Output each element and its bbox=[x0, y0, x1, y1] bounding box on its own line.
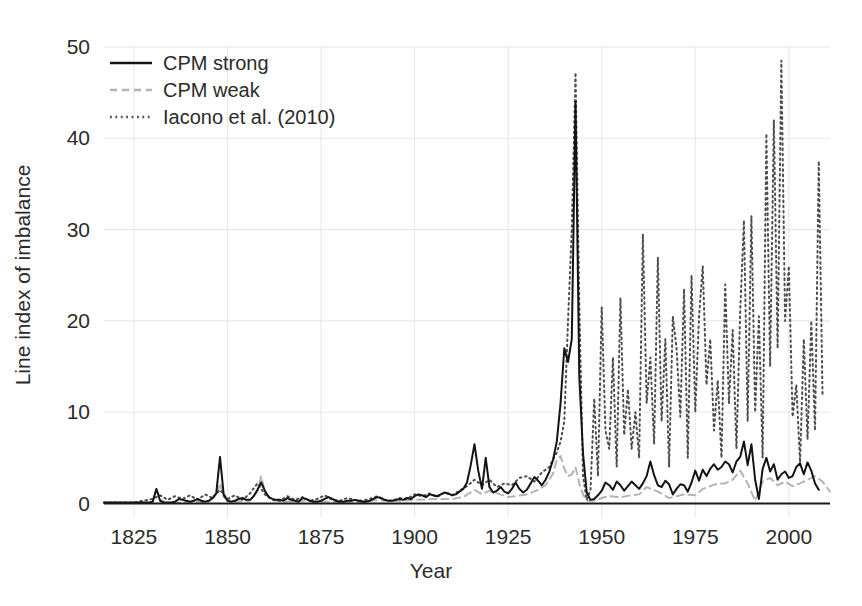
x-tick-label: 1950 bbox=[578, 525, 625, 548]
y-tick-label: 10 bbox=[67, 400, 90, 423]
y-tick-label: 40 bbox=[67, 126, 90, 149]
x-tick-label: 2000 bbox=[765, 525, 812, 548]
y-axis-title: Line index of imbalance bbox=[11, 165, 34, 386]
x-axis-title: Year bbox=[410, 559, 452, 582]
y-tick-label: 50 bbox=[67, 35, 90, 58]
legend-label-cpm-strong: CPM strong bbox=[163, 52, 269, 74]
x-tick-label: 1975 bbox=[672, 525, 719, 548]
legend-label-iacono: Iacono et al. (2010) bbox=[163, 106, 335, 128]
x-tick-label: 1825 bbox=[111, 525, 158, 548]
x-tick-label: 1850 bbox=[204, 525, 251, 548]
line-chart-figure: 01020304050 1825185018751900192519501975… bbox=[0, 0, 862, 606]
x-tick-label: 1925 bbox=[485, 525, 532, 548]
figure-background bbox=[0, 0, 862, 606]
y-tick-label: 0 bbox=[78, 492, 90, 515]
x-tick-label: 1875 bbox=[298, 525, 345, 548]
y-tick-label: 30 bbox=[67, 218, 90, 241]
x-tick-label: 1900 bbox=[391, 525, 438, 548]
y-tick-label: 20 bbox=[67, 309, 90, 332]
legend-label-cpm-weak: CPM weak bbox=[163, 79, 261, 101]
